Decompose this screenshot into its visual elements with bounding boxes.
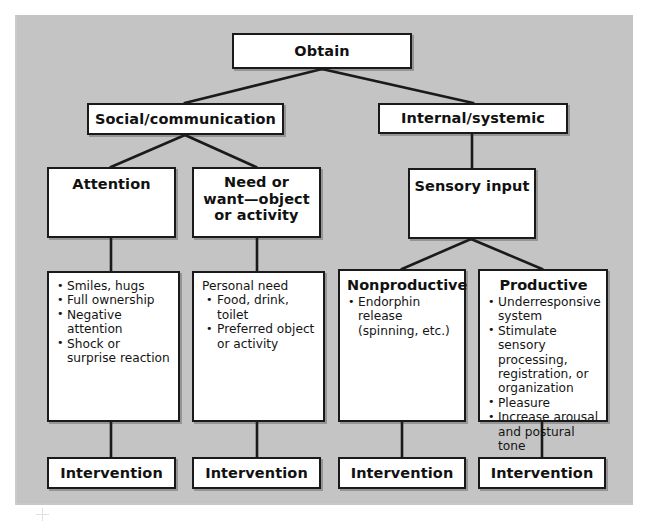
productive-bullet-list: Underresponsive system Stimulate sensory… bbox=[487, 295, 600, 453]
node-attention[interactable]: Attention bbox=[47, 167, 176, 238]
node-sensory-input[interactable]: Sensory input bbox=[408, 168, 536, 239]
productive-header: Productive bbox=[487, 277, 600, 294]
content-box-nonproductive[interactable]: Nonproductive Endorphin release (spinnin… bbox=[338, 269, 466, 422]
node-social-communication[interactable]: Social/communication bbox=[87, 103, 284, 135]
nonproductive-bullet-list: Endorphin release (spinning, etc.) bbox=[347, 295, 458, 338]
list-item: Pleasure bbox=[488, 396, 600, 410]
node-intervention-3[interactable]: Intervention bbox=[338, 457, 466, 489]
node-need-or-want-line2: want—object bbox=[194, 191, 319, 208]
list-item: Food, drink, toilet bbox=[206, 293, 317, 322]
list-item: Shock or surprise reaction bbox=[57, 337, 172, 366]
node-internal-systemic[interactable]: Internal/systemic bbox=[378, 103, 568, 134]
node-obtain[interactable]: Obtain bbox=[232, 33, 412, 69]
list-item: Smiles, hugs bbox=[57, 279, 172, 293]
node-intervention-3-label: Intervention bbox=[351, 465, 454, 482]
list-item: Underresponsive system bbox=[488, 295, 600, 324]
content-box-need-or-want[interactable]: Personal need Food, drink, toilet Prefer… bbox=[192, 271, 325, 422]
attention-bullet-list: Smiles, hugs Full ownership Negative att… bbox=[56, 279, 172, 365]
node-sensory-input-label: Sensory input bbox=[410, 178, 534, 195]
node-social-communication-label: Social/communication bbox=[95, 111, 276, 128]
content-box-productive[interactable]: Productive Underresponsive system Stimul… bbox=[478, 269, 608, 422]
need-lead-text: Personal need bbox=[202, 279, 317, 293]
node-need-or-want-line3: or activity bbox=[194, 207, 319, 224]
node-internal-systemic-label: Internal/systemic bbox=[401, 110, 545, 127]
registration-crosshair-icon bbox=[36, 508, 49, 521]
list-item: Endorphin release (spinning, etc.) bbox=[348, 295, 458, 338]
need-bullet-list: Food, drink, toilet Preferred object or … bbox=[201, 293, 317, 351]
nonproductive-header: Nonproductive bbox=[347, 277, 458, 294]
node-intervention-2[interactable]: Intervention bbox=[192, 457, 321, 489]
node-intervention-1-label: Intervention bbox=[60, 465, 163, 482]
node-obtain-label: Obtain bbox=[294, 43, 349, 60]
figure-page: Obtain Social/communication Internal/sys… bbox=[0, 0, 648, 522]
node-intervention-1[interactable]: Intervention bbox=[47, 457, 176, 489]
node-need-or-want-line1: Need or bbox=[194, 174, 319, 191]
node-intervention-2-label: Intervention bbox=[205, 465, 308, 482]
node-intervention-4-label: Intervention bbox=[491, 465, 594, 482]
node-need-or-want[interactable]: Need or want—object or activity bbox=[192, 167, 321, 238]
node-intervention-4[interactable]: Intervention bbox=[478, 457, 606, 489]
list-item: Stimulate sensory processing, registrati… bbox=[488, 324, 600, 396]
node-attention-label: Attention bbox=[49, 176, 174, 193]
list-item: Preferred object or activity bbox=[206, 322, 317, 351]
list-item: Full ownership bbox=[57, 293, 172, 307]
list-item: Negative attention bbox=[57, 308, 172, 337]
content-box-attention[interactable]: Smiles, hugs Full ownership Negative att… bbox=[47, 271, 180, 422]
list-item: Increase arousal and postural tone bbox=[488, 410, 600, 453]
cropped-text-above-figure bbox=[80, 0, 200, 7]
